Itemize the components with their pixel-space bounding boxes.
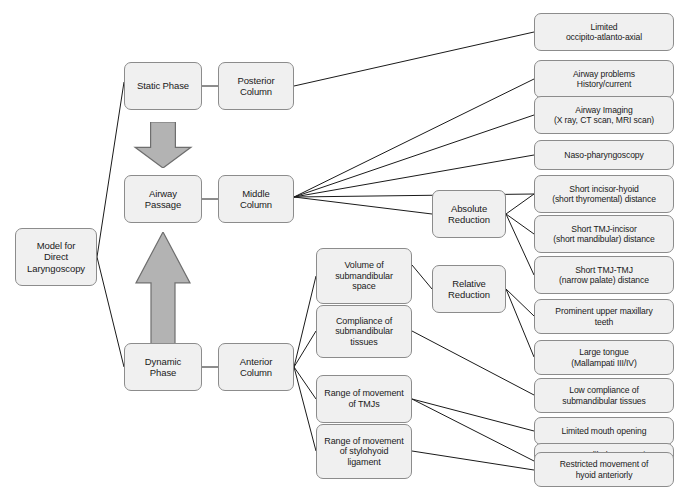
node-r09[interactable]: Large tongue(Mallampati III/IV) [534, 340, 674, 375]
node-label-r10: Low compliance ofsubmandibular tissues [538, 385, 670, 405]
node-label-compliance_submandibular: Compliance ofsubmandibulartissues [320, 316, 408, 348]
node-label-r06: Short TMJ-incisor(short mandibular) dist… [538, 224, 670, 244]
node-static_phase[interactable]: Static Phase [124, 62, 202, 110]
node-r08[interactable]: Prominent upper maxillaryteeth [534, 299, 674, 334]
node-root[interactable]: Model forDirectLaryngoscopy [15, 228, 97, 286]
edge-volume_submandibular-to-relative_reduction [412, 265, 432, 289]
node-r05[interactable]: Short incisor-hyoid(short thyromental) d… [534, 175, 674, 213]
node-airway_passage[interactable]: AirwayPassage [124, 175, 202, 223]
edge-range_tmjs-to-r12 [412, 399, 534, 461]
node-relative_reduction[interactable]: RelativeReduction [432, 265, 506, 313]
edge-absolute_reduction-to-r07 [506, 214, 534, 275]
edge-middle_column-to-r02 [294, 79, 534, 197]
edge-root-to-dynamic_phase [97, 257, 124, 367]
node-r01[interactable]: Limitedoccipito-atlanto-axial [534, 13, 674, 51]
node-label-r07: Short TMJ-TMJ(narrow palate) distance [538, 265, 670, 285]
node-range_tmjs[interactable]: Range of movementof TMJs [316, 375, 412, 423]
node-label-r01: Limitedoccipito-atlanto-axial [538, 22, 670, 42]
node-label-r11: Limited mouth opening [538, 426, 670, 436]
node-label-r13: Restricted movement ofhyoid anteriorly [538, 459, 670, 479]
node-label-range_stylohyoid: Range of movementof stylohyoidligament [320, 436, 408, 468]
node-label-r02: Airway problemsHistory/current [538, 69, 670, 89]
node-r06[interactable]: Short TMJ-incisor(short mandibular) dist… [534, 215, 674, 253]
node-label-r05: Short incisor-hyoid(short thyromental) d… [538, 184, 670, 204]
node-dynamic_phase[interactable]: DynamicPhase [124, 343, 202, 391]
edge-range_tmjs-to-r11 [412, 399, 534, 431]
edge-relative_reduction-to-r09 [506, 289, 534, 357]
edge-root-to-static_phase [97, 82, 124, 257]
node-label-anterior_column: AnteriorColumn [222, 356, 290, 378]
node-volume_submandibular[interactable]: Volume ofsubmandibularspace [316, 248, 412, 304]
node-label-posterior_column: PosteriorColumn [222, 75, 290, 97]
diagram-canvas: Model forDirectLaryngoscopyStatic PhaseA… [0, 0, 683, 496]
edge-posterior_column-to-r01 [294, 32, 534, 86]
node-middle_column[interactable]: MiddleColumn [218, 175, 294, 223]
node-label-r04: Naso-pharyngoscopy [538, 150, 670, 160]
arrow-down-static-to-airway [132, 122, 194, 168]
edge-middle_column-to-absolute_reduction [294, 197, 432, 214]
node-label-static_phase: Static Phase [128, 80, 198, 91]
node-label-r03: Airway Imaging(X ray, CT scan, MRI scan) [538, 105, 670, 125]
edge-compliance_submandibular-to-r10 [412, 331, 534, 395]
edge-anterior_column-to-volume_submandibular [294, 276, 316, 367]
edge-anterior_column-to-compliance_submandibular [294, 331, 316, 367]
edge-anterior_column-to-range_stylohyoid [294, 367, 316, 451]
arrow-down-static-to-airway-glyph [135, 122, 191, 168]
node-range_stylohyoid[interactable]: Range of movementof stylohyoidligament [316, 424, 412, 479]
node-compliance_submandibular[interactable]: Compliance ofsubmandibulartissues [316, 305, 412, 358]
edge-relative_reduction-to-r08 [506, 289, 534, 316]
edge-anterior_column-to-range_tmjs [294, 367, 316, 399]
node-absolute_reduction[interactable]: AbsoluteReduction [432, 190, 506, 238]
node-label-relative_reduction: RelativeReduction [436, 278, 502, 300]
node-label-r09: Large tongue(Mallampati III/IV) [538, 347, 670, 367]
edge-range_stylohyoid-to-r13 [412, 451, 534, 470]
node-label-airway_passage: AirwayPassage [128, 188, 198, 210]
edge-middle_column-to-r03 [294, 115, 534, 197]
node-label-middle_column: MiddleColumn [222, 188, 290, 210]
node-r07[interactable]: Short TMJ-TMJ(narrow palate) distance [534, 256, 674, 294]
node-label-r08: Prominent upper maxillaryteeth [538, 306, 670, 326]
arrow-up-dynamic-to-airway-glyph [136, 232, 190, 345]
node-posterior_column[interactable]: PosteriorColumn [218, 62, 294, 110]
node-anterior_column[interactable]: AnteriorColumn [218, 343, 294, 391]
node-label-absolute_reduction: AbsoluteReduction [436, 203, 502, 225]
node-r03[interactable]: Airway Imaging(X ray, CT scan, MRI scan) [534, 96, 674, 134]
node-label-range_tmjs: Range of movementof TMJs [320, 388, 408, 409]
node-r04[interactable]: Naso-pharyngoscopy [534, 140, 674, 170]
node-r10[interactable]: Low compliance ofsubmandibular tissues [534, 378, 674, 413]
node-r11[interactable]: Limited mouth opening [534, 417, 674, 445]
edge-absolute_reduction-to-r05b [506, 194, 534, 214]
node-label-root: Model forDirectLaryngoscopy [19, 240, 93, 274]
node-r13[interactable]: Restricted movement ofhyoid anteriorly [534, 452, 674, 487]
node-label-dynamic_phase: DynamicPhase [128, 356, 198, 378]
arrow-up-dynamic-to-airway [133, 232, 193, 345]
node-r02[interactable]: Airway problemsHistory/current [534, 60, 674, 98]
node-label-volume_submandibular: Volume ofsubmandibularspace [320, 260, 408, 292]
